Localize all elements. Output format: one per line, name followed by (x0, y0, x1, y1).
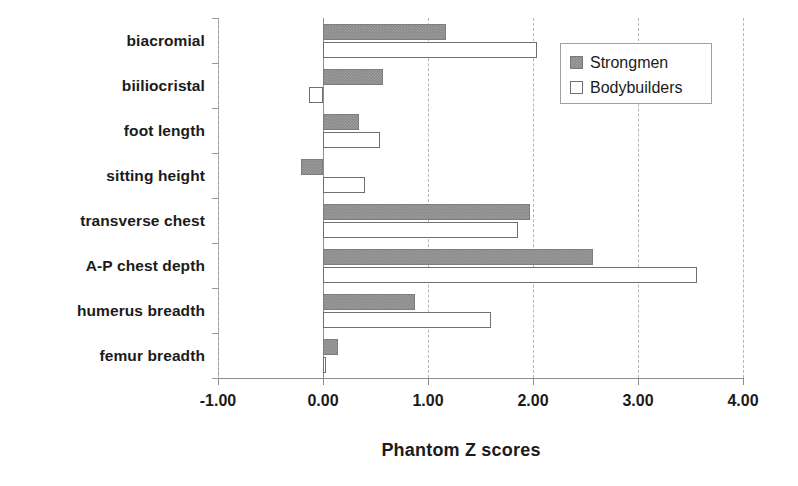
category-label-femur-breadth: femur breadth (0, 347, 205, 365)
x-tick (533, 378, 534, 385)
legend-item-strongmen: Strongmen (570, 50, 711, 75)
category-tick (212, 198, 219, 199)
legend-item-bodybuilders: Bodybuilders (570, 75, 711, 100)
x-tick-label-0p00: 0.00 (307, 392, 338, 410)
legend: Strongmen Bodybuilders (560, 43, 712, 104)
category-tick (212, 108, 219, 109)
category-label-biiliocristal: biiliocristal (0, 77, 205, 95)
bar-humerus-breadth-bodybuilders (323, 312, 491, 328)
category-label-transverse-chest: transverse chest (0, 212, 205, 230)
bar-a-p-chest-depth-bodybuilders (323, 267, 697, 283)
category-tick (212, 63, 219, 64)
x-tick-label-3p00: 3.00 (622, 392, 653, 410)
x-tick-label-1p00: 1.00 (412, 392, 443, 410)
legend-swatch-bodybuilders-icon (570, 81, 583, 94)
bar-a-p-chest-depth-strongmen (323, 249, 593, 265)
x-tick (218, 378, 219, 385)
bar-biacromial-strongmen (323, 24, 446, 40)
category-tick (212, 288, 219, 289)
category-label-biacromial: biacromial (0, 32, 205, 50)
bar-sitting-height-bodybuilders (323, 177, 365, 193)
bar-biacromial-bodybuilders (323, 42, 537, 58)
category-label-sitting-height: sitting height (0, 167, 205, 185)
category-tick (212, 333, 219, 334)
x-tick (323, 378, 324, 385)
bar-foot-length-bodybuilders (323, 132, 380, 148)
x-axis-title: Phantom Z scores (0, 440, 798, 461)
x-tick (638, 378, 639, 385)
gridline-4 (743, 18, 744, 378)
x-axis-title-text: Phantom Z scores (381, 440, 540, 461)
x-tick (743, 378, 744, 385)
x-axis-line (218, 378, 743, 379)
category-tick (212, 153, 219, 154)
category-label-a-p-chest-depth: A-P chest depth (0, 257, 205, 275)
category-label-humerus-breadth: humerus breadth (0, 302, 205, 320)
bar-biiliocristal-strongmen (323, 69, 383, 85)
bar-sitting-height-strongmen (301, 159, 323, 175)
bar-foot-length-strongmen (323, 114, 359, 130)
legend-label-strongmen: Strongmen (590, 54, 668, 72)
x-tick-label-2p00: 2.00 (517, 392, 548, 410)
gridline-2 (533, 18, 534, 378)
bar-chart: biacromialbiiliocristalfoot lengthsittin… (0, 0, 798, 486)
bar-humerus-breadth-strongmen (323, 294, 415, 310)
bar-femur-breadth-bodybuilders (323, 357, 326, 373)
bar-femur-breadth-strongmen (323, 339, 338, 355)
legend-label-bodybuilders: Bodybuilders (590, 79, 683, 97)
x-tick-label-neg1p00: -1.00 (200, 392, 236, 410)
category-axis-labels: biacromialbiiliocristalfoot lengthsittin… (0, 18, 205, 378)
x-tick-label-4p00: 4.00 (727, 392, 758, 410)
category-tick (212, 243, 219, 244)
bar-biiliocristal-bodybuilders (309, 87, 323, 103)
category-tick (212, 378, 219, 379)
category-tick (212, 18, 219, 19)
legend-swatch-strongmen-icon (570, 56, 583, 69)
category-label-foot-length: foot length (0, 122, 205, 140)
x-tick (428, 378, 429, 385)
bar-transverse-chest-bodybuilders (323, 222, 518, 238)
bar-transverse-chest-strongmen (323, 204, 530, 220)
